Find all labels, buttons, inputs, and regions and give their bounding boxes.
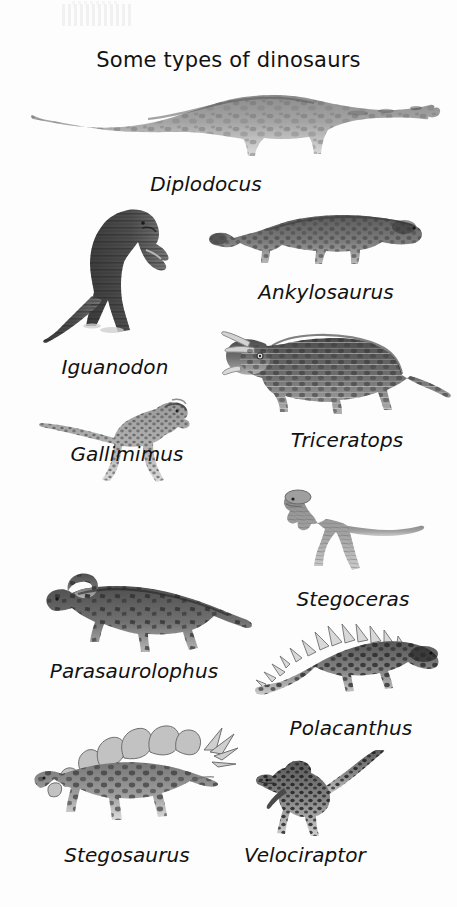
dinosaur-image-diplodocus [28,86,448,166]
dinosaur-image-iguanodon [42,206,190,344]
dinosaur-label-iguanodon: Iguanodon [25,355,205,379]
dinosaur-label-ankylosaurus: Ankylosaurus [226,280,426,304]
dinosaur-label-diplodocus: Diplodocus [106,172,306,196]
page-title: Some types of dinosaurs [0,48,457,72]
dinosaur-image-polacanthus [252,622,444,710]
dinosaur-image-gallimimus [36,398,204,484]
dinosaur-image-ankylosaurus [208,208,424,270]
dinosaur-label-velociraptor: Velociraptor [205,843,405,867]
dinosaur-image-velociraptor [254,750,394,838]
dinosaur-label-stegoceras: Stegoceras [253,587,453,611]
dinosaur-label-triceratops: Triceratops [247,428,447,452]
dinosaur-label-gallimimus: Gallimimus [37,442,217,466]
scan-artifact-top [62,4,132,26]
dinosaur-label-polacanthus: Polacanthus [251,716,451,740]
dinosaur-image-stegosaurus [30,722,256,832]
dinosaur-image-parasaurolophus [38,566,254,658]
dinosaur-label-parasaurolophus: Parasaurolophus [24,659,244,683]
dinosaur-poster: Some types of dinosaurs [0,0,457,907]
dinosaur-image-triceratops [220,326,452,418]
dinosaur-label-stegosaurus: Stegosaurus [27,843,227,867]
dinosaur-image-stegoceras [278,486,428,576]
